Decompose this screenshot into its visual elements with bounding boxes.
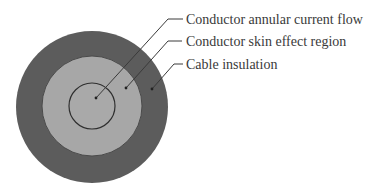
- label-skin-effect-region: Conductor skin effect region: [186, 34, 346, 49]
- conductor-annular-core: [69, 83, 115, 129]
- label-annular-current-flow: Conductor annular current flow: [186, 12, 364, 27]
- cable-cross-section-diagram: Conductor annular current flow Conductor…: [0, 0, 370, 195]
- label-cable-insulation: Cable insulation: [186, 57, 277, 72]
- arrowhead-annular-current: [95, 97, 98, 100]
- arrowhead-insulation: [151, 88, 154, 91]
- arrowhead-skin-effect: [125, 87, 128, 90]
